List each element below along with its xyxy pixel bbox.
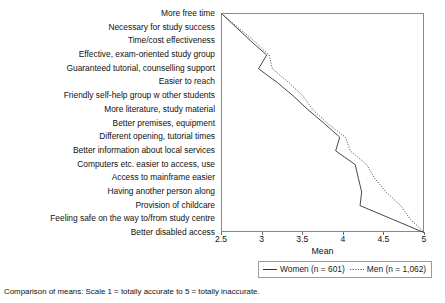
category-label: Different opening, tutorial times	[99, 130, 215, 142]
category-label: Guaranteed tutorial, counselling support	[66, 62, 215, 74]
dotted-line-swatch	[350, 266, 364, 273]
category-label: Easier to reach	[159, 75, 215, 87]
legend-label-men: Men (n = 1,062)	[367, 264, 426, 275]
x-tick-label: 4.5	[377, 234, 389, 244]
x-tick-label: 3	[259, 234, 264, 244]
chart-legend: Women (n = 601) Men (n = 1,062)	[258, 261, 432, 278]
x-axis-title: Mean	[221, 246, 424, 256]
x-tick-label: 2.5	[215, 234, 227, 244]
category-label: Friendly self-help group w other student…	[64, 89, 215, 101]
plot-area	[221, 13, 424, 232]
plot-lines	[222, 14, 425, 233]
category-label: More free time	[161, 7, 215, 19]
footer-note: Comparison of means: Scale 1 = totally a…	[4, 286, 260, 297]
category-label: Access to mainframe easier	[112, 171, 215, 183]
category-label: Better premises, equipment	[113, 117, 215, 129]
category-label: Necessary for study success	[108, 21, 215, 33]
category-label: Time/cost effectiveness	[128, 34, 215, 46]
category-label: Having another person along	[107, 185, 215, 197]
x-tick-label: 4	[340, 234, 345, 244]
series-line-men	[222, 14, 425, 233]
solid-line-swatch	[263, 266, 277, 273]
category-label: Feeling safe on the way to/from study ce…	[50, 212, 215, 224]
category-label: More literature, study material	[104, 103, 215, 115]
category-label: Computers etc. easier to access, use	[77, 158, 215, 170]
legend-item-men[interactable]: Men (n = 1,062)	[350, 264, 426, 275]
category-label: Better disabled access	[131, 226, 215, 238]
x-tick-label: 3.5	[296, 234, 308, 244]
category-axis-labels: More free timeNecessary for study succes…	[0, 13, 218, 232]
chart-container: More free timeNecessary for study succes…	[0, 0, 445, 303]
category-label: Effective, exam-oriented study group	[79, 48, 215, 60]
x-tick-label: 5	[422, 234, 427, 244]
legend-item-women[interactable]: Women (n = 601)	[263, 264, 345, 275]
category-label: Provision of childcare	[135, 199, 215, 211]
category-label: Better information about local services	[73, 144, 215, 156]
legend-label-women: Women (n = 601)	[280, 264, 345, 275]
